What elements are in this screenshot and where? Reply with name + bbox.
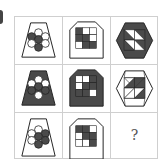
cell-r1c3	[111, 17, 158, 65]
trapezoid-flower-figure	[15, 113, 62, 159]
house-grid-figure	[63, 17, 110, 64]
cell-r2c2	[63, 65, 111, 113]
cell-r1c1	[15, 17, 63, 65]
trapezoid-flower-figure	[15, 65, 62, 112]
hexagon-triangles-figure	[111, 17, 158, 64]
question-marker	[0, 10, 3, 24]
house-grid-figure	[63, 65, 110, 112]
house-grid-figure	[63, 113, 110, 159]
trapezoid-flower-figure	[15, 17, 62, 64]
cell-r2c3	[111, 65, 158, 113]
cell-r3c2	[63, 113, 111, 159]
question-mark: ?	[111, 127, 158, 143]
cell-r2c1	[15, 65, 63, 113]
puzzle-grid: ?	[14, 16, 158, 159]
cell-r3c1	[15, 113, 63, 159]
cell-r3c3-unknown: ?	[111, 113, 158, 159]
cell-r1c2	[63, 17, 111, 65]
hexagon-triangles-figure	[111, 65, 158, 112]
